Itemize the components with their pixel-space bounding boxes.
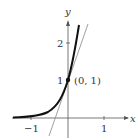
y-axis-arrow-icon (66, 20, 70, 26)
x-axis-arrow-icon (124, 116, 129, 120)
y-tick-1: 1 (57, 75, 63, 86)
y-axis-label: y (64, 6, 71, 17)
exponential-graph: (0, 1) 1 2 −1 1 x y (0, 0, 138, 140)
x-tick-1: 1 (101, 123, 107, 134)
y-tick-2: 2 (57, 38, 63, 49)
exponential-curve (13, 25, 79, 118)
x-tick-neg1: −1 (24, 123, 39, 134)
point-marker (66, 78, 70, 82)
point-label: (0, 1) (74, 75, 101, 86)
x-axis-label: x (130, 113, 136, 124)
